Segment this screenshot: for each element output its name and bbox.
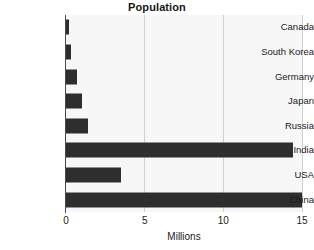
x-tick-label-10: 10	[203, 215, 243, 226]
bar-chart: Population CanadaSouth KoreaGermanyJapan…	[0, 0, 314, 250]
x-tick-label-0: 0	[46, 215, 86, 226]
bar-usa[interactable]	[66, 168, 121, 183]
x-tick-label-5: 5	[125, 215, 165, 226]
y-tick-label-india: India	[252, 144, 314, 155]
y-tick-label-japan: Japan	[252, 95, 314, 106]
x-axis-title: Millions	[66, 231, 302, 242]
y-tick-label-germany: Germany	[252, 71, 314, 82]
y-tick-label-russia: Russia	[252, 120, 314, 131]
bar-south-korea[interactable]	[66, 44, 71, 59]
y-tick-label-china: China	[252, 194, 314, 205]
plot-area	[66, 15, 302, 212]
chart-title: Population	[0, 1, 314, 13]
bar-canada[interactable]	[66, 20, 69, 35]
y-tick-label-usa: USA	[252, 169, 314, 180]
y-tick-label-canada: Canada	[252, 21, 314, 32]
bar-germany[interactable]	[66, 69, 77, 84]
bar-russia[interactable]	[66, 118, 88, 133]
x-tick-label-15: 15	[282, 215, 314, 226]
y-tick-label-south-korea: South Korea	[252, 46, 314, 57]
bar-japan[interactable]	[66, 94, 82, 109]
